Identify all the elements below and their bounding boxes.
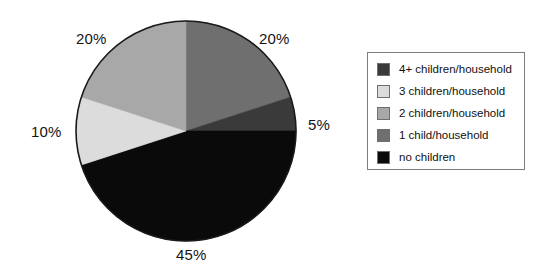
legend-label-3-children: 3 children/household (399, 86, 505, 98)
legend-item-2-children: 2 children/household (377, 103, 524, 124)
legend-item-3-children: 3 children/household (377, 81, 524, 102)
pie-chart-figure: 20% 20% 10% 5% 45% 4+ children/household… (0, 0, 541, 280)
legend-label-no-children: no children (399, 152, 455, 164)
legend-swatch-2-children (377, 107, 390, 120)
chart-legend: 4+ children/household 3 children/househo… (367, 52, 525, 170)
pie-slices (76, 21, 296, 241)
legend-swatch-4plus-children (377, 63, 390, 76)
legend-swatch-3-children (377, 85, 390, 98)
pie-label-4plus-children: 5% (308, 117, 330, 132)
pie-label-3-children: 10% (31, 124, 62, 139)
pie-label-no-children: 45% (176, 247, 207, 262)
legend-item-1-child: 1 child/household (377, 125, 524, 146)
legend-item-no-children: no children (377, 147, 524, 168)
legend-label-4plus-children: 4+ children/household (399, 64, 512, 76)
legend-label-2-children: 2 children/household (399, 108, 505, 120)
legend-label-1-child: 1 child/household (399, 130, 489, 142)
pie-label-2-children: 20% (76, 31, 107, 46)
legend-swatch-1-child (377, 129, 390, 142)
legend-swatch-no-children (377, 151, 390, 164)
pie-label-1-child: 20% (259, 31, 290, 46)
legend-item-4plus-children: 4+ children/household (377, 59, 524, 80)
